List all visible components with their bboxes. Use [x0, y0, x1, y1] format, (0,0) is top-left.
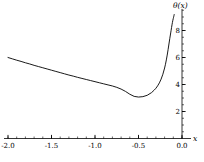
x-axis	[4, 135, 191, 139]
y-tick-label: 6	[173, 54, 180, 62]
y-tick-label: 2	[173, 108, 180, 116]
y-axis-label: θ(x)	[173, 1, 188, 10]
y-tick-label: 4	[173, 81, 180, 89]
x-tick-label: -0.5	[132, 142, 146, 150]
theta-curve	[8, 15, 174, 97]
x-tick-label: -1.5	[45, 142, 59, 150]
x-axis-label: x	[193, 134, 197, 143]
x-tick-label: 0.0	[176, 142, 187, 150]
x-tick-label: -1.0	[88, 142, 102, 150]
plot-figure: -2.0-1.5-1.0-0.50.02468 θ(x) x	[0, 0, 204, 162]
x-tick-label: -2.0	[1, 142, 15, 150]
y-tick-label: 8	[173, 27, 180, 35]
y-axis	[182, 9, 186, 139]
